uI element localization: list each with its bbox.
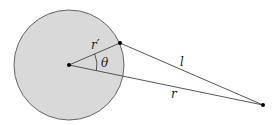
label-r-prime: r′ [91,38,100,52]
label-r: r [171,87,178,101]
geometry-figure: r′ θ l r [0,0,278,125]
source-point [118,41,122,45]
label-l: l [180,55,184,69]
l-segment [120,43,263,105]
diagram: r′ θ l r [0,0,278,125]
center-point [67,63,71,67]
field-point [261,103,265,107]
label-theta: θ [101,56,109,70]
